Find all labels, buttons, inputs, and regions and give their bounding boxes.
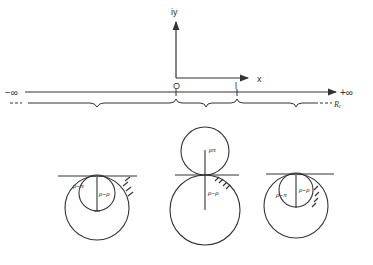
middle-upper-label: ρπ bbox=[208, 146, 216, 154]
real-line: −∞ +∞ O l bbox=[5, 81, 353, 98]
right-inner-label: ρ₋π bbox=[275, 191, 287, 199]
origin-label: O bbox=[173, 81, 180, 91]
left-region-figure bbox=[58, 175, 137, 240]
interval-braces bbox=[10, 99, 332, 107]
coordinate-axes: iy x bbox=[171, 7, 262, 84]
y-axis-label: iy bbox=[171, 7, 178, 17]
middle-region-figure bbox=[170, 127, 240, 245]
right-region-figure bbox=[264, 173, 334, 238]
right-outer-label: ρ₋ρ bbox=[298, 186, 310, 194]
real-axis-label: Rₑ bbox=[333, 100, 341, 109]
middle-lower-label: ρ₋ρ bbox=[207, 189, 219, 197]
x-axis-label: x bbox=[257, 74, 262, 84]
left-inner-label: ρ₋π bbox=[72, 182, 84, 190]
left-outer-label: ρ₋ρ bbox=[98, 190, 110, 198]
plus-infinity-label: +∞ bbox=[340, 87, 353, 98]
minus-infinity-label: −∞ bbox=[5, 87, 18, 98]
diagram-canvas: iy x −∞ +∞ O l Rₑ ρ₋π ρ₋ρ ρπ ρ₋ρ bbox=[0, 0, 373, 265]
